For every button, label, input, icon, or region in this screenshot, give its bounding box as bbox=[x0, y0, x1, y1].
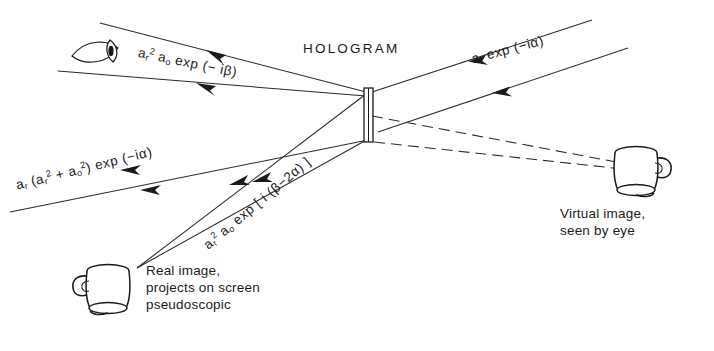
formula-mid-t1-sup: 2 bbox=[45, 168, 52, 179]
virtual-image-caption: Virtual image, seen by eye bbox=[560, 205, 645, 239]
transmitted-beam bbox=[10, 71, 368, 212]
virtual-image-ray bbox=[372, 116, 650, 172]
real-image-caption-line3: pseudoscopic bbox=[146, 296, 260, 313]
arrowhead-reference-lower bbox=[492, 87, 512, 97]
virtual-image-caption-line2: seen by eye bbox=[560, 222, 645, 239]
arrowhead-real-image-a bbox=[229, 175, 250, 185]
arrowhead-transmitted-left-b bbox=[140, 185, 161, 195]
real-image-caption-line2: projects on screen bbox=[146, 279, 260, 296]
formula-mid-close: ) bbox=[84, 159, 93, 175]
eye-icon bbox=[72, 40, 118, 62]
real-image-caption-line1: Real image, bbox=[146, 262, 260, 279]
hologram-plate bbox=[364, 88, 373, 142]
formula-upper-left-a-sup: 2 bbox=[149, 46, 156, 57]
virtual-image-caption-line1: Virtual image, bbox=[560, 205, 645, 222]
arrowhead-transmitted-upper bbox=[196, 83, 216, 96]
formula-upper-left-b-sub: o bbox=[165, 57, 172, 68]
mug-virtual-image bbox=[614, 147, 671, 197]
real-image-beam bbox=[137, 94, 370, 268]
formula-mid-open: (a bbox=[29, 171, 45, 189]
mug-real-image bbox=[73, 265, 130, 315]
real-image-caption: Real image, projects on screen pseudosco… bbox=[146, 262, 260, 313]
hologram-label: HOLOGRAM bbox=[303, 41, 399, 56]
